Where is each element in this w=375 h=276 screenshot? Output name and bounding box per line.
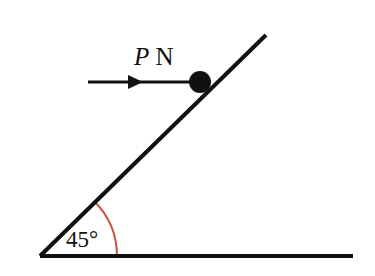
force-label-magnitude: P — [133, 43, 149, 70]
angle-label: 45° — [66, 227, 98, 252]
force-label-unit: N — [156, 43, 174, 70]
figure-canvas: P N 45° — [0, 0, 375, 276]
particle-block — [189, 71, 211, 93]
incline-diagram-svg: P N 45° — [0, 0, 375, 276]
force-label: P N — [133, 43, 174, 70]
background-plate — [0, 0, 375, 276]
